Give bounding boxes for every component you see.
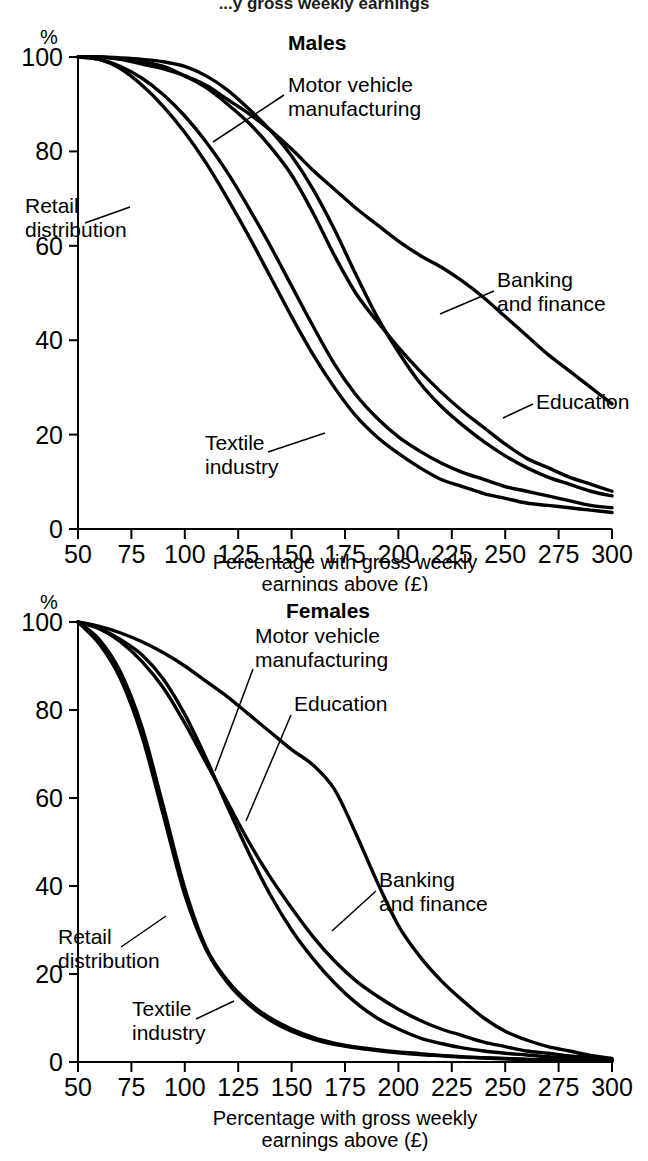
- males-leader-education: [503, 404, 533, 418]
- females-x-axis-title-line2: earnings above (£): [262, 1129, 429, 1151]
- males-annotation-retail: Retail distribution: [25, 194, 130, 241]
- females-annotation-banking: Banking and finance: [332, 868, 488, 931]
- females-x-tick-label-125: 125: [217, 1073, 259, 1101]
- males-y-ticks: [69, 57, 78, 529]
- females-x-tick-label-150: 150: [271, 1073, 313, 1101]
- males-label-motor-vehicle-line1: Motor vehicle: [288, 73, 413, 96]
- males-leader-banking: [440, 291, 494, 314]
- females-x-tick-label-175: 175: [324, 1073, 366, 1101]
- females-x-tick-label-75: 75: [117, 1073, 145, 1101]
- males-label-banking-line1: Banking: [497, 268, 573, 291]
- females-y-ticks: [69, 622, 78, 1062]
- females-label-textile-line2: industry: [132, 1021, 206, 1044]
- males-x-tick-label-75: 75: [117, 540, 145, 568]
- males-x-axis-title-line2: earnings above (£): [262, 573, 429, 591]
- females-panel-title: Females: [286, 599, 370, 622]
- females-y-tick-label-40: 40: [35, 872, 63, 900]
- females-leader-textile: [196, 1001, 234, 1019]
- females-series-curves: [78, 622, 612, 1061]
- females-label-banking-line1: Banking: [379, 868, 455, 891]
- females-y-tick-label-0: 0: [49, 1048, 63, 1076]
- males-label-banking-line2: and finance: [497, 292, 606, 315]
- males-x-tick-label-100: 100: [164, 540, 206, 568]
- males-y-tick-label-20: 20: [35, 421, 63, 449]
- females-leader-motor-vehicle: [215, 669, 253, 771]
- males-label-education: Education: [536, 390, 629, 413]
- males-label-retail-line1: Retail: [25, 194, 79, 217]
- males-label-textile-line2: industry: [205, 455, 279, 478]
- females-leader-retail: [121, 916, 166, 947]
- males-label-retail-line2: distribution: [25, 218, 127, 241]
- males-x-tick-label-50: 50: [64, 540, 92, 568]
- males-chart-svg: 020406080100 507510012515017520022525027…: [0, 26, 648, 591]
- females-x-axis-title-line1: Percentage with gross weekly: [213, 1107, 478, 1129]
- females-y-axis-unit: %: [40, 591, 58, 613]
- females-x-tick-labels: 5075100125150175200225250275300: [64, 1073, 633, 1101]
- females-annotation-education: Education: [246, 692, 387, 821]
- females-x-ticks: [78, 1062, 612, 1072]
- females-label-motor-vehicle-line2: manufacturing: [255, 648, 388, 671]
- males-x-tick-label-250: 250: [484, 540, 526, 568]
- females-label-education: Education: [294, 692, 387, 715]
- females-annotation-textile: Textile industry: [132, 997, 234, 1044]
- females-x-tick-label-200: 200: [378, 1073, 420, 1101]
- chart-panel-males: 020406080100 507510012515017520022525027…: [0, 26, 648, 591]
- males-label-motor-vehicle-line2: manufacturing: [288, 97, 421, 120]
- chart-panel-females: 020406080100 507510012515017520022525027…: [0, 591, 648, 1161]
- males-x-axis-title-line1: Percentage with gross weekly: [213, 551, 478, 573]
- males-y-tick-labels: 020406080100: [21, 43, 63, 543]
- females-chart-svg: 020406080100 507510012515017520022525027…: [0, 591, 648, 1161]
- males-y-tick-label-80: 80: [35, 137, 63, 165]
- females-y-tick-labels: 020406080100: [21, 608, 63, 1076]
- males-annotation-textile: Textile industry: [205, 431, 325, 478]
- females-x-tick-label-250: 250: [484, 1073, 526, 1101]
- females-label-motor-vehicle-line1: Motor vehicle: [255, 624, 380, 647]
- females-label-retail-line1: Retail: [58, 925, 112, 948]
- females-x-tick-label-275: 275: [538, 1073, 580, 1101]
- females-leader-banking: [332, 891, 376, 931]
- males-x-tick-label-300: 300: [591, 540, 633, 568]
- females-curve-motor-vehicle-manufacturing: [78, 622, 612, 1060]
- page-heading-cropped: ...y gross weekly earnings: [0, 0, 648, 16]
- females-label-banking-line2: and finance: [379, 892, 488, 915]
- females-x-tick-label-225: 225: [431, 1073, 473, 1101]
- females-x-tick-label-100: 100: [164, 1073, 206, 1101]
- females-y-tick-label-80: 80: [35, 696, 63, 724]
- males-label-textile-line1: Textile: [205, 431, 265, 454]
- males-x-tick-label-275: 275: [538, 540, 580, 568]
- females-annotation-retail: Retail distribution: [58, 916, 166, 972]
- males-y-tick-label-0: 0: [49, 515, 63, 543]
- figure-root: ...y gross weekly earnings 020406080100 …: [0, 0, 648, 1161]
- females-x-tick-label-50: 50: [64, 1073, 92, 1101]
- males-leader-textile: [268, 433, 325, 452]
- males-x-ticks: [78, 529, 612, 539]
- males-y-tick-label-40: 40: [35, 326, 63, 354]
- males-panel-title: Males: [288, 31, 346, 54]
- females-label-retail-line2: distribution: [58, 949, 160, 972]
- males-y-axis-unit: %: [40, 26, 58, 48]
- females-x-tick-label-300: 300: [591, 1073, 633, 1101]
- males-annotation-education: Education: [503, 390, 629, 418]
- females-y-tick-label-60: 60: [35, 784, 63, 812]
- males-annotation-banking: Banking and finance: [440, 268, 606, 315]
- females-label-textile-line1: Textile: [132, 997, 192, 1020]
- males-annotation-motor-vehicle: Motor vehicle manufacturing: [213, 73, 421, 142]
